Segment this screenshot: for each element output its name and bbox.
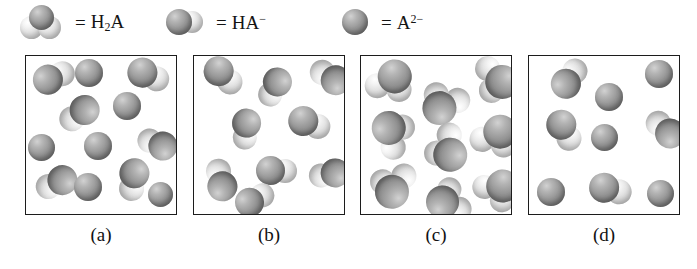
ion-a-2minus: [28, 134, 55, 161]
molecule-ha-minus: [285, 103, 337, 144]
molecule-ha-minus: [303, 156, 345, 193]
atom-sphere-dark: [148, 182, 173, 207]
legend-label-ha-minus: HA−: [232, 12, 266, 34]
h2a-molecule-icon: [18, 4, 66, 42]
molecule-ha-minus: [198, 55, 252, 102]
molecule-ha-minus: [28, 55, 82, 100]
ion-a-2minus: [647, 180, 674, 207]
molecule-ha-minus: [302, 55, 345, 100]
particle-box-a: [25, 55, 177, 215]
molecule-h2a: [361, 157, 421, 213]
particle-box-c: [360, 55, 512, 215]
molecule-ha-minus: [251, 62, 297, 114]
atom-sphere-dark: [84, 132, 112, 160]
ion-a-2minus: [113, 92, 141, 120]
ion-a-2minus: [74, 173, 102, 201]
atom-sphere-dark: [75, 59, 103, 87]
ion-a-2minus: [84, 132, 112, 160]
ion-a-2minus: [645, 60, 673, 88]
legend-equals-h2a: =: [75, 12, 86, 34]
a-2minus-ion-icon: [340, 4, 372, 42]
legend-equals-ha-minus: =: [216, 12, 227, 34]
atom-sphere-dark: [28, 134, 55, 161]
molecule-ha-minus: [587, 170, 637, 207]
particle-box-d: [528, 55, 680, 215]
molecule-ha-minus: [230, 107, 263, 153]
legend-item-a-2minus: = A2−: [340, 3, 423, 43]
molecule-ha-minus: [637, 104, 680, 155]
panel-label-a: (a): [25, 224, 177, 246]
ion-a-2minus: [148, 182, 173, 207]
atom-sphere-dark: [645, 60, 673, 88]
legend-label-a-2minus: A2−: [397, 12, 424, 34]
ion-a-2minus: [537, 178, 565, 206]
legend-item-h2a: = H2A: [18, 3, 124, 43]
molecule-ha-minus: [540, 104, 591, 158]
ion-a-2minus: [595, 83, 623, 111]
ion-a-2minus: [591, 124, 618, 151]
ion-a-2minus: [75, 59, 103, 87]
molecule-h2a: [469, 55, 512, 110]
molecule-ha-minus: [123, 55, 176, 96]
atom-sphere-dark: [113, 92, 141, 120]
panel-label-c: (c): [360, 224, 512, 246]
atom-sphere-dark: [595, 83, 623, 111]
legend-label-h2a: H2A: [91, 11, 124, 35]
atom-sphere-dark: [537, 178, 565, 206]
ha-minus-molecule-icon: [165, 4, 207, 42]
molecule-h2a: [464, 106, 512, 169]
atom-sphere-dark: [591, 124, 618, 151]
particle-box-b: [193, 55, 345, 215]
molecule-ha-minus: [545, 55, 594, 104]
panel-label-d: (d): [528, 224, 680, 246]
legend-equals-a-2minus: =: [381, 12, 392, 34]
molecule-ha-minus: [117, 157, 151, 205]
panel-label-b: (b): [193, 224, 345, 246]
legend-item-ha-minus: = HA−: [165, 3, 266, 43]
atom-sphere-dark: [647, 180, 674, 207]
atom-sphere-dark: [74, 173, 102, 201]
